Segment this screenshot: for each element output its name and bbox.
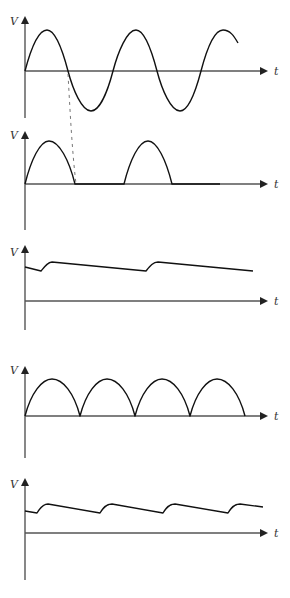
y-axis-label: V — [10, 246, 19, 259]
smoothed-half-wave-output — [25, 262, 253, 271]
x-axis-label: t — [274, 295, 279, 308]
panel-smoothed-half-wave: V t — [10, 246, 279, 330]
panel-full-wave: V t — [10, 364, 279, 458]
panel-sine-input: V t — [10, 15, 279, 118]
y-axis-label: V — [10, 364, 19, 377]
panel-smoothed-full-wave: V t — [10, 478, 279, 580]
y-axis-label: V — [10, 129, 19, 142]
smoothed-full-wave-output — [25, 504, 263, 513]
panel-half-wave: V t — [10, 129, 279, 230]
half-wave-output — [25, 141, 220, 184]
full-wave-output — [25, 379, 245, 416]
rectifier-waveforms-diagram: V t V t V t V t V t — [0, 0, 290, 598]
x-axis-label: t — [274, 410, 279, 423]
y-axis-label: V — [10, 15, 19, 28]
x-axis-label: t — [274, 527, 279, 540]
x-axis-label: t — [274, 178, 279, 191]
x-axis-label: t — [274, 65, 279, 78]
y-axis-label: V — [10, 478, 19, 491]
